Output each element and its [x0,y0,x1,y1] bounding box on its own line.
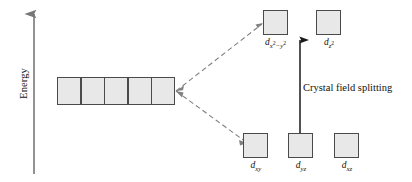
lower-box-dxz [334,133,359,158]
label-dyz: dyz [283,160,319,170]
degenerate-box-2 [81,77,105,105]
degenerate-box-5 [151,77,175,105]
crystal-field-splitting-diagram: Energy dx2−y2 dz2 dxy dyz dxz Crystal fi… [0,0,412,182]
label-dx2-y2-sub-tail-exp: 2 [283,40,286,46]
label-dxz-symbol: d [342,160,347,170]
connector-to-upper-level [176,24,262,91]
degenerate-box-1 [57,77,81,105]
label-dz2-sub-exp: 2 [331,40,334,46]
label-dxz: dxz [329,160,365,170]
label-dyz-symbol: d [296,160,301,170]
label-dxz-sub: xz [347,165,353,172]
label-dx2-y2-sub-exp: 2 [273,40,276,46]
label-dxy-sub: xy [255,165,261,172]
label-dz2: dz2 [310,37,348,47]
upper-box-dx2-y2 [263,10,288,35]
label-dxy: dxy [238,160,274,170]
lower-box-dyz [288,133,313,158]
label-dx2-y2: dx2−y2 [251,37,300,47]
energy-axis-label: Energy [18,54,29,114]
label-dyz-sub: yz [301,165,307,172]
lower-box-dxy [243,133,268,158]
degenerate-box-4 [128,77,152,105]
connector-arrowhead-lower [176,91,184,98]
degenerate-box-3 [104,77,128,105]
connector-tip-upper-box [256,23,264,28]
crystal-field-splitting-caption: Crystal field splitting [303,82,392,93]
upper-box-dz2 [316,10,341,35]
connector-to-lower-level [176,91,246,142]
